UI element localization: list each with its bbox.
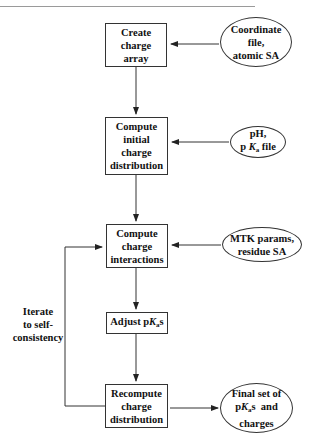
box-label: Adjust pKas [110, 315, 163, 332]
compute-initial-charge-distribution-box: Compute initial charge distribution [105, 117, 168, 175]
recompute-charge-distribution-box: Recompute charge distribution [105, 384, 168, 428]
adjust-pkas-box: Adjust pKas [106, 312, 168, 334]
ellipse-label: Final set of pKas and charges [232, 387, 282, 430]
box-label: Compute initial charge distribution [110, 120, 163, 172]
compute-charge-interactions-box: Compute charge interactions [106, 224, 168, 268]
final-output-ellipse: Final set of pKas and charges [220, 383, 293, 433]
coordinate-file-input-ellipse: Coordinate file, atomic SA [220, 17, 292, 67]
mtk-params-input-ellipse: MTK params, residue SA [222, 227, 302, 262]
box-label: Create charge array [121, 26, 151, 65]
ellipse-label: MTK params, residue SA [230, 232, 294, 258]
box-label: Recompute charge distribution [110, 387, 163, 426]
box-label: Compute charge interactions [110, 227, 163, 266]
iterate-loop-label: Iterate to self- consistency [10, 305, 66, 344]
ellipse-label: Coordinate file, atomic SA [231, 23, 282, 62]
ellipse-label: pH, p Ka file [240, 127, 276, 157]
create-charge-array-box: Create charge array [105, 23, 167, 67]
ph-pka-file-input-ellipse: pH, p Ka file [230, 126, 286, 158]
